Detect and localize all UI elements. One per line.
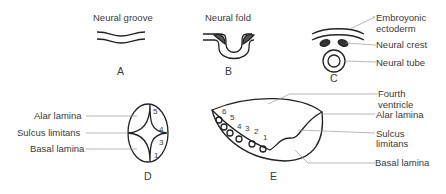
e-number-4: 4: [237, 121, 241, 132]
d-number-5: 5: [153, 106, 157, 117]
e-number-3: 3: [245, 123, 249, 134]
limitans-label: limitans: [376, 138, 408, 149]
neural-tube-label: Neural tube: [376, 57, 425, 68]
panel-c-leaders: [345, 17, 376, 62]
d-number-4: 4: [159, 124, 163, 135]
panel-e-leaders: [268, 94, 378, 163]
panel-e-drawing: [212, 99, 323, 161]
panel-a-letter: A: [117, 65, 124, 77]
d-number-3: 3: [159, 137, 163, 148]
d-number-1: 1: [154, 150, 158, 161]
neural-groove-label: Neural groove: [93, 12, 153, 23]
embryonic-label: Embroyonic: [376, 12, 426, 23]
neural-crest-label: Neural crest: [376, 39, 427, 50]
panel-b-drawing: [203, 34, 254, 59]
neural-fold-label: Neural fold: [205, 12, 251, 23]
e-basal-lamina-label: Basal lamina: [375, 157, 429, 168]
fourth-label: Fourth: [378, 88, 405, 99]
panel-a-drawing: [97, 32, 145, 43]
d-sulcus-limitans-label: Sulcus limitans: [17, 127, 80, 138]
e-number-6: 6: [222, 106, 226, 117]
panel-c-drawing: [312, 29, 364, 72]
ectoderm-label: ectoderm: [376, 23, 416, 34]
d-alar-lamina-label: Alar lamina: [34, 110, 82, 121]
panel-e-letter: E: [270, 170, 277, 182]
e-number-2: 2: [254, 126, 258, 137]
panel-c-letter: C: [330, 72, 338, 84]
d-basal-lamina-label: Basal lamina: [30, 143, 84, 154]
e-alar-lamina-label: Alar lamina: [376, 109, 424, 120]
panel-b-letter: B: [225, 65, 232, 77]
e-number-1: 1: [263, 132, 267, 143]
e-number-5: 5: [230, 112, 234, 123]
panel-d-letter: D: [144, 170, 152, 182]
